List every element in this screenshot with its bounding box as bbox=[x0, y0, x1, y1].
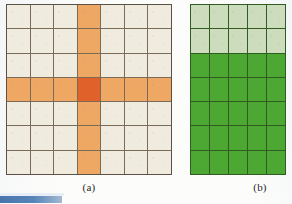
grid-b-cell-r4-c1 bbox=[191, 78, 209, 101]
grid-b-cell-r6-c4 bbox=[248, 126, 266, 149]
grid-b-cell-r4-c2 bbox=[210, 78, 228, 101]
grid-b-cell-r1-c4 bbox=[248, 5, 266, 28]
grid-a-cell-r5-c4 bbox=[78, 102, 101, 125]
grid-a-cell-r5-c5 bbox=[101, 102, 124, 125]
grid-b-cell-r6-c1 bbox=[191, 126, 209, 149]
grid-b-cell-r6-c2 bbox=[210, 126, 228, 149]
grid-a-cell-r5-c6 bbox=[125, 102, 148, 125]
grid-a-cell-r1-c2 bbox=[31, 5, 54, 28]
grid-b-cell-r1-c3 bbox=[229, 5, 247, 28]
grid-a bbox=[6, 4, 172, 175]
grid-a-cell-r2-c1 bbox=[7, 29, 30, 52]
grid-a-cell-r6-c1 bbox=[7, 126, 30, 149]
grid-a-cell-r4-c4 bbox=[78, 78, 101, 101]
grid-b-cell-r1-c5 bbox=[267, 5, 285, 28]
grid-b-cell-r5-c3 bbox=[229, 102, 247, 125]
grid-a-cell-r4-c5 bbox=[101, 78, 124, 101]
grid-a-cell-r3-c5 bbox=[101, 54, 124, 77]
grid-b-cell-r6-c5 bbox=[267, 126, 285, 149]
grid-a-cell-r4-c7 bbox=[148, 78, 171, 101]
grid-a-cell-r2-c6 bbox=[125, 29, 148, 52]
grid-b-cell-r3-c3 bbox=[229, 54, 247, 77]
grid-a-cell-r1-c3 bbox=[54, 5, 77, 28]
grid-b-cell-r3-c2 bbox=[210, 54, 228, 77]
grid-b-cell-r3-c1 bbox=[191, 54, 209, 77]
grid-a-cell-r4-c1 bbox=[7, 78, 30, 101]
grid-a-cell-r7-c2 bbox=[31, 151, 54, 174]
grid-b-cell-r7-c4 bbox=[248, 151, 266, 174]
grid-a-cell-r4-c2 bbox=[31, 78, 54, 101]
grid-a-cell-r7-c3 bbox=[54, 151, 77, 174]
grid-b-cell-r1-c1 bbox=[191, 5, 209, 28]
grid-a-cell-r5-c1 bbox=[7, 102, 30, 125]
grid-a-cell-r3-c7 bbox=[148, 54, 171, 77]
grid-b-cell-r2-c1 bbox=[191, 29, 209, 52]
grid-b-cell-r5-c1 bbox=[191, 102, 209, 125]
grid-a-cell-r1-c4 bbox=[78, 5, 101, 28]
grid-a-cell-r6-c6 bbox=[125, 126, 148, 149]
grid-a-cell-r4-c3 bbox=[54, 78, 77, 101]
grid-b-cell-r4-c3 bbox=[229, 78, 247, 101]
grid-a-cell-r1-c7 bbox=[148, 5, 171, 28]
caption-a: (a) bbox=[48, 181, 130, 193]
grid-a-cell-r3-c6 bbox=[125, 54, 148, 77]
grid-a-cell-r7-c1 bbox=[7, 151, 30, 174]
grid-b-cell-r3-c5 bbox=[267, 54, 285, 77]
grid-a-cell-r6-c4 bbox=[78, 126, 101, 149]
grid-a-cell-r2-c2 bbox=[31, 29, 54, 52]
grid-a-cell-r1-c6 bbox=[125, 5, 148, 28]
grid-b-cell-r7-c1 bbox=[191, 151, 209, 174]
grid-b-cell-r3-c4 bbox=[248, 54, 266, 77]
grid-a-cell-r6-c7 bbox=[148, 126, 171, 149]
grid-a-cell-r2-c7 bbox=[148, 29, 171, 52]
grid-b-cell-r2-c4 bbox=[248, 29, 266, 52]
grid-b-cell-r7-c2 bbox=[210, 151, 228, 174]
grid-a-cell-r6-c2 bbox=[31, 126, 54, 149]
grid-b-cell-r5-c2 bbox=[210, 102, 228, 125]
grid-b-cell-r7-c3 bbox=[229, 151, 247, 174]
grid-a-cell-r7-c7 bbox=[148, 151, 171, 174]
grid-b-cell-r4-c4 bbox=[248, 78, 266, 101]
grid-a-cell-r1-c1 bbox=[7, 5, 30, 28]
grid-a-cell-r6-c3 bbox=[54, 126, 77, 149]
grid-a-cell-r6-c5 bbox=[101, 126, 124, 149]
grid-a-cell-r7-c4 bbox=[78, 151, 101, 174]
grid-a-cell-r3-c4 bbox=[78, 54, 101, 77]
grid-b bbox=[190, 4, 286, 175]
scan-artifact-bar bbox=[0, 196, 62, 203]
grid-a-cell-r2-c4 bbox=[78, 29, 101, 52]
grid-a-cell-r5-c2 bbox=[31, 102, 54, 125]
grid-b-cell-r1-c2 bbox=[210, 5, 228, 28]
grid-b-cell-r5-c4 bbox=[248, 102, 266, 125]
grid-b-cell-r2-c3 bbox=[229, 29, 247, 52]
grid-b-cell-r2-c2 bbox=[210, 29, 228, 52]
grid-b-cell-r2-c5 bbox=[267, 29, 285, 52]
grid-b-cell-r6-c3 bbox=[229, 126, 247, 149]
grid-a-cell-r7-c6 bbox=[125, 151, 148, 174]
grid-a-cell-r5-c7 bbox=[148, 102, 171, 125]
grid-a-cell-r2-c5 bbox=[101, 29, 124, 52]
grid-b-cell-r7-c5 bbox=[267, 151, 285, 174]
grid-a-cell-r5-c3 bbox=[54, 102, 77, 125]
grid-a-cell-r7-c5 bbox=[101, 151, 124, 174]
grid-a-cell-r2-c3 bbox=[54, 29, 77, 52]
grid-a-cell-r3-c3 bbox=[54, 54, 77, 77]
grid-a-cell-r1-c5 bbox=[101, 5, 124, 28]
grid-a-cell-r3-c2 bbox=[31, 54, 54, 77]
grid-a-cell-r3-c1 bbox=[7, 54, 30, 77]
grid-b-cell-r4-c5 bbox=[267, 78, 285, 101]
grid-a-cell-r4-c6 bbox=[125, 78, 148, 101]
caption-b: (b) bbox=[232, 181, 288, 193]
grid-b-cell-r5-c5 bbox=[267, 102, 285, 125]
